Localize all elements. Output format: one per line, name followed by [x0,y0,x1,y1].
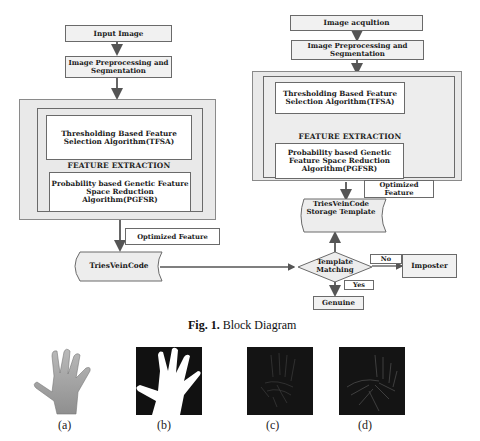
left-tfsa-label: Thresholding Based Feature Selection Alg… [47,130,191,146]
left-pgfsr-label: Probability based Genetic Feature Space … [50,180,190,204]
no-label-box: No [370,254,402,264]
image-acquisition-label: Image acqultion [324,19,390,27]
template-matching-label: Template Matching [300,258,370,274]
no-label: No [381,255,391,263]
binary-hand-image [136,347,202,415]
figure-caption-title: Block Diagram [223,318,297,332]
hand-photo-image [30,346,100,416]
yes-label-box: Yes [344,280,374,290]
sub-image-b-label: (b) [157,418,171,433]
imposter-box: Imposter [402,254,457,278]
sub-image-a-label: (a) [58,418,71,433]
right-pgfsr-label: Probability based Genetic Feature Space … [276,149,403,173]
right-tfsa-box: Thresholding Based Feature Selection Alg… [275,82,405,114]
left-tries-vein-code-label: TriesVeinCode [74,261,164,270]
sub-image-d-label: (d) [358,418,372,433]
figure-caption: Fig. 1. Block Diagram [188,318,296,333]
right-pgfsr-box: Probability based Genetic Feature Space … [275,143,404,179]
right-preprocessing-box: Image Preprocessing and Segmentation [291,40,424,60]
left-optimized-feature-label: Optimized Feature [137,233,208,241]
storage-template-label: TriesVeinCode Storage Template [300,200,382,216]
left-preprocessing-box: Image Preprocessing and Segmentation [65,56,172,78]
input-image-label: Input Image [94,30,144,38]
right-preprocessing-label: Image Preprocessing and Segmentation [292,42,423,58]
left-feature-extraction-label: FEATURE EXTRACTION [46,161,192,170]
genuine-label: Genuine [322,299,355,307]
left-pgfsr-box: Probability based Genetic Feature Space … [49,172,191,212]
yes-label: Yes [353,281,365,289]
image-acquisition-box: Image acqultion [290,15,423,31]
sub-image-c-label: (c) [266,418,279,433]
left-optimized-feature-box: Optimized Feature [125,228,220,245]
enhanced-vein-image [339,347,405,415]
genuine-box: Genuine [313,296,364,310]
right-optimized-feature-label: Optimized Feature [365,181,433,197]
imposter-label: Imposter [411,262,448,270]
right-optimized-feature-box: Optimized Feature [364,180,434,198]
right-tfsa-label: Thresholding Based Feature Selection Alg… [276,90,404,106]
input-image-box: Input Image [65,25,172,42]
right-feature-extraction-label: FEATURE EXTRACTION [270,132,430,141]
left-tfsa-box: Thresholding Based Feature Selection Alg… [46,115,192,160]
figure-caption-prefix: Fig. 1. [188,318,220,332]
left-preprocessing-label: Image Preprocessing and Segmentation [66,59,171,75]
vein-feature-image [247,347,313,415]
